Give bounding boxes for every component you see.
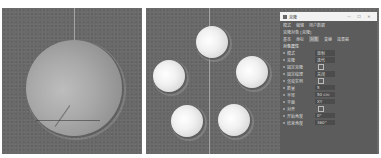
keyframe-dot-icon[interactable] <box>283 108 285 110</box>
render-instances-checkbox[interactable] <box>318 78 324 84</box>
tab-coord[interactable]: 坐标 <box>296 36 304 42</box>
mode-select[interactable]: 放射 <box>315 50 335 56</box>
panel-title-bar[interactable]: 克隆 — ☐ ✕ <box>280 12 377 21</box>
fix-clone-checkbox[interactable] <box>318 64 324 70</box>
attr-row-plane: 平面XY <box>280 98 377 105</box>
attr-row-end-angle: 结束角度360° <box>280 119 377 126</box>
clone-sphere[interactable] <box>218 104 250 136</box>
keyframe-dot-icon[interactable] <box>283 52 285 54</box>
clone-sphere[interactable] <box>196 26 228 58</box>
x-axis-line <box>36 120 100 121</box>
keyframe-dot-icon[interactable] <box>283 80 285 82</box>
clone-sphere[interactable] <box>236 56 268 88</box>
attr-row-fix-texture: 固定纹理关闭 <box>280 70 377 77</box>
object-name-line: 克隆对象 [克隆] <box>280 28 377 35</box>
attr-row-render-instances: 渲染实例 <box>280 77 377 84</box>
panel-tabs: 基本 坐标 对象 变换 效果器 <box>280 35 377 42</box>
attr-row-count: 数量5 <box>280 84 377 91</box>
fix-texture-select[interactable]: 关闭 <box>315 71 335 77</box>
attributes-panel: 克隆 — ☐ ✕ 模式 编辑 用户数据 克隆对象 [克隆] 基本 坐标 对象 变… <box>280 12 377 154</box>
tab-transform[interactable]: 变换 <box>324 36 332 42</box>
end-angle-field[interactable]: 360° <box>315 120 335 125</box>
plane-select[interactable]: XY <box>315 99 335 104</box>
cloner-icon <box>283 15 287 19</box>
count-field[interactable]: 5 <box>315 85 335 90</box>
keyframe-dot-icon[interactable] <box>283 101 285 103</box>
keyframe-dot-icon[interactable] <box>283 94 285 96</box>
tab-basic[interactable]: 基本 <box>283 36 291 42</box>
keyframe-dot-icon[interactable] <box>283 122 285 124</box>
panel-title: 克隆 <box>289 14 344 20</box>
menu-edit[interactable]: 编辑 <box>296 22 304 28</box>
menu-user-data[interactable]: 用户数据 <box>309 22 325 28</box>
attr-row-fix-clone: 固定克隆 <box>280 63 377 70</box>
keyframe-dot-icon[interactable] <box>283 115 285 117</box>
align-checkbox[interactable] <box>318 106 324 112</box>
panel-menu: 模式 编辑 用户数据 <box>280 21 377 28</box>
keyframe-dot-icon[interactable] <box>283 66 285 68</box>
start-angle-field[interactable]: 0° <box>315 113 335 118</box>
tab-effectors[interactable]: 效果器 <box>337 36 349 42</box>
maximize-button[interactable]: ☐ <box>354 14 364 19</box>
attr-row-start-angle: 开始角度0° <box>280 112 377 119</box>
attr-row-mode: 模式放射 <box>280 49 377 56</box>
sphere-object[interactable] <box>26 40 122 136</box>
attr-row-radius: 半径50 cm <box>280 91 377 98</box>
clones-select[interactable]: 迭代 <box>315 57 335 63</box>
attr-row-align: 对齐 <box>280 105 377 112</box>
menu-mode[interactable]: 模式 <box>283 22 291 28</box>
attr-row-clones: 克隆迭代 <box>280 56 377 63</box>
keyframe-dot-icon[interactable] <box>283 59 285 61</box>
clone-sphere[interactable] <box>153 60 185 92</box>
keyframe-dot-icon[interactable] <box>283 87 285 89</box>
minimize-button[interactable]: — <box>344 14 354 19</box>
tab-object[interactable]: 对象 <box>309 36 319 42</box>
keyframe-dot-icon[interactable] <box>283 73 285 75</box>
radius-field[interactable]: 50 cm <box>315 92 335 97</box>
close-button[interactable]: ✕ <box>364 14 374 19</box>
section-title: 对象属性 <box>280 42 377 49</box>
left-viewport[interactable] <box>2 8 142 154</box>
clone-sphere[interactable] <box>171 105 203 137</box>
